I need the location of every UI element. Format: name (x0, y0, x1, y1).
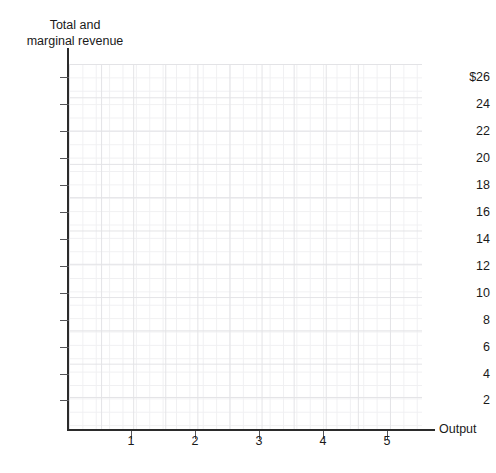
revenue-graph-canvas: Total and marginal revenue $262422201816… (0, 0, 496, 473)
y-axis-tick-label: 22 (436, 125, 496, 138)
y-axis-tick-label: $26 (436, 71, 496, 84)
y-axis-tick-label: 18 (436, 179, 496, 192)
y-axis-tick-label: 6 (436, 341, 496, 354)
y-axis-tick-label: 16 (436, 206, 496, 219)
plot-area-grid (69, 64, 422, 430)
y-axis-tick-mark (60, 374, 69, 375)
y-axis-tick-label: 10 (436, 287, 496, 300)
x-axis-tick-label: 5 (372, 433, 402, 449)
y-axis-tick-mark (60, 347, 69, 348)
x-axis-tick-label: 2 (180, 433, 210, 449)
x-axis-line (67, 429, 435, 431)
y-axis-title-line-1: Total and (0, 17, 150, 33)
y-axis-tick-mark (60, 131, 69, 132)
y-axis-title-line-2: marginal revenue (0, 33, 150, 49)
y-axis-tick-mark (60, 293, 69, 294)
y-axis-tick-label: 14 (436, 233, 496, 246)
y-axis-tick-mark (60, 266, 69, 267)
y-axis-tick-mark (60, 158, 69, 159)
y-axis-tick-mark (60, 400, 69, 401)
x-axis-tick-label: 1 (116, 433, 146, 449)
y-axis-tick-label: 12 (436, 260, 496, 273)
y-axis-tick-label: 24 (436, 98, 496, 111)
y-axis-tick-mark (60, 104, 69, 105)
y-axis-tick-label: 8 (436, 314, 496, 327)
y-axis-tick-mark (60, 185, 69, 186)
x-axis-title: Output (439, 421, 477, 437)
y-axis-tick-label: 20 (436, 152, 496, 165)
y-axis-tick-label: 2 (436, 394, 496, 407)
y-axis-tick-mark (60, 320, 69, 321)
y-axis-tick-label: 4 (436, 368, 496, 381)
y-axis-tick-mark (60, 77, 69, 78)
y-axis-tick-mark (60, 212, 69, 213)
y-axis-tick-mark (60, 239, 69, 240)
y-axis-title: Total and marginal revenue (0, 17, 150, 49)
x-axis-tick-label: 3 (244, 433, 274, 449)
x-axis-tick-label: 4 (308, 433, 338, 449)
